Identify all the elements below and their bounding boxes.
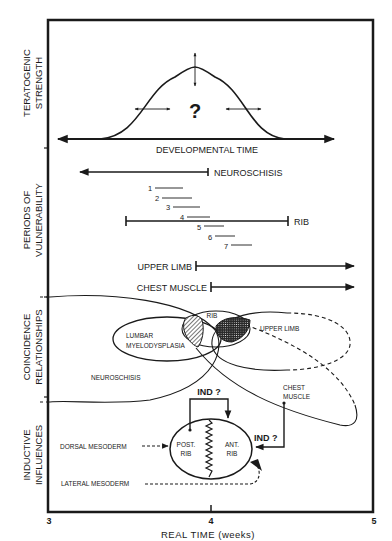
segment-label: 7 [224, 242, 228, 251]
x-tick-4: 4 [208, 516, 213, 526]
myelodysplasia-label: MYELODYSPLASIA [126, 342, 186, 349]
panel-label-teratogenic: TERATOGENIC STRENGTH [21, 49, 44, 117]
lumbar-myelodysplasia-region [113, 317, 221, 361]
coincidence-rib-label: RIB [207, 312, 218, 319]
upper-limb-label: UPPER LIMB [137, 262, 192, 272]
panel-label-coincidence: COINCIDENCE RELATIONSHIPS [21, 309, 44, 384]
figure-canvas: TERATOGENIC STRENGTH PERIODS OF VULNERAB… [0, 0, 392, 541]
ant-rib-label: RIB [227, 450, 238, 457]
ind-top-label: IND ? [197, 387, 221, 397]
panel-label-vulnerability: PERIODS OF VULNERABILITY [21, 182, 44, 257]
dorsal-mesoderm-label: DORSAL MESODERM [60, 443, 127, 450]
panel-label-line: TERATOGENIC [21, 49, 32, 117]
developmental-time-label: DEVELOPMENTAL TIME [156, 145, 258, 155]
coincidence-panel: RIB LUMBAR MYELODYSPLASIA UPPER LIMB NEU… [40, 296, 357, 426]
rib-label: RIB [294, 217, 309, 227]
uncertainty-question-mark: ? [189, 100, 201, 122]
lateral-mesoderm-label: LATERAL MESODERM [61, 480, 129, 487]
panel-label-line: INDUCTIVE [21, 429, 32, 480]
teratogenic-panel: ? DEVELOPMENTAL TIME [58, 53, 334, 155]
post-rib-label: RIB [181, 450, 192, 457]
lumbar-label: LUMBAR [126, 332, 153, 339]
x-axis-title: REAL TIME (weeks) [161, 529, 255, 540]
zigzag-boundary [206, 420, 212, 477]
panel-label-line: VULNERABILITY [33, 182, 44, 257]
panel-label-line: INFLUENCES [33, 425, 44, 485]
neuroschisis-label: NEUROSCHISIS [214, 168, 283, 178]
vulnerability-panel: NEUROSCHISIS 1 2 3 4 5 6 7 RIB UPPER LIM… [80, 168, 354, 293]
x-tick-3: 3 [46, 516, 51, 526]
ant-label: ANT. [225, 441, 239, 448]
segment-label: 1 [148, 184, 152, 193]
panel-label-line: COINCIDENCE [21, 314, 32, 381]
coincidence-chest-label: CHEST [283, 384, 305, 391]
coincidence-upper-limb-label: UPPER LIMB [260, 325, 299, 332]
ind-right-label: IND ? [254, 433, 278, 443]
coincidence-muscle-label: MUSCLE [283, 393, 311, 400]
x-tick-5: 5 [371, 516, 376, 526]
x-axis: 3 4 5 REAL TIME (weeks) [46, 516, 376, 540]
segment-label: 2 [155, 194, 159, 203]
rib-segments: 1 2 3 4 5 6 7 [148, 184, 252, 251]
panel-label-line: PERIODS OF [21, 191, 32, 250]
coincidence-neuroschisis-label: NEUROSCHISIS [91, 374, 141, 381]
segment-label: 3 [166, 203, 170, 212]
post-label: POST. [177, 441, 196, 448]
segment-label: 6 [208, 233, 212, 242]
lateral-mesoderm-arrowhead [250, 459, 262, 471]
panel-label-line: STRENGTH [33, 57, 44, 109]
panel-label-inductive: INDUCTIVE INFLUENCES [21, 425, 44, 485]
panel-label-line: RELATIONSHIPS [33, 309, 44, 384]
chest-muscle-label: CHEST MUSCLE [137, 283, 207, 293]
rib-lumbar-overlap-hatch [184, 315, 204, 347]
segment-label: 5 [197, 223, 201, 232]
